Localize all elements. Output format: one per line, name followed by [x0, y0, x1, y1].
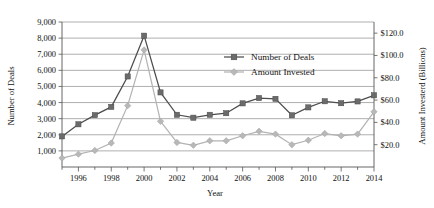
y-tick-label: 8,000	[37, 34, 56, 43]
legend-marker-square-icon	[231, 54, 237, 60]
y-tick-label: 4,000	[37, 99, 56, 108]
data-point-marker	[108, 140, 114, 146]
data-point-marker	[92, 147, 98, 153]
chart-legend: Number of DealsAmount Invested	[224, 52, 315, 77]
data-point-marker	[273, 96, 278, 101]
y-tick-label: 2,000	[37, 131, 56, 140]
x-tick-label: 2002	[169, 174, 186, 183]
y2-tick-label: $80.0	[381, 74, 400, 83]
data-point-marker	[190, 142, 196, 148]
y-axis-title: Number of Deals	[6, 66, 16, 126]
data-point-marker	[256, 128, 262, 134]
data-point-marker	[207, 138, 213, 144]
data-point-marker	[240, 101, 245, 106]
y2-tick-label: $60.0	[381, 96, 400, 105]
y-tick-label: 9,000	[37, 18, 56, 27]
series-layer	[59, 33, 377, 161]
y-tick-label: 6,000	[37, 66, 56, 75]
x-tick-label: 2010	[300, 174, 317, 183]
data-point-marker	[239, 133, 245, 139]
data-point-marker	[272, 131, 278, 137]
y2-axis-tick-labels: $20.0$40.0$60.0$80.0$100.0$120.0	[381, 29, 404, 150]
data-point-marker	[141, 47, 147, 53]
chart-container: 1,0002,0003,0004,0005,0006,0007,0008,000…	[0, 0, 434, 208]
data-point-marker	[355, 99, 360, 104]
legend-item-label: Amount Invested	[251, 67, 315, 77]
data-point-marker	[75, 151, 81, 157]
y-tick-label: 3,000	[37, 115, 56, 124]
x-tick-label: 2012	[333, 174, 350, 183]
data-point-marker	[289, 113, 294, 118]
data-point-marker	[322, 130, 328, 136]
x-tick-label: 2004	[201, 174, 219, 183]
line-chart: 1,0002,0003,0004,0005,0006,0007,0008,000…	[0, 0, 434, 208]
data-point-marker	[142, 33, 147, 38]
y2-tick-label: $20.0	[381, 141, 400, 150]
data-point-marker	[371, 93, 376, 98]
data-point-marker	[59, 155, 65, 161]
y-tick-label: 7,000	[37, 50, 56, 59]
y2-tick-label: $100.0	[381, 51, 404, 60]
x-tick-label: 1998	[103, 174, 120, 183]
y-axis-tick-labels: 1,0002,0003,0004,0005,0006,0007,0008,000…	[37, 18, 56, 156]
x-tick-label: 2014	[366, 174, 384, 183]
y2-tick-label: $120.0	[381, 29, 404, 38]
legend-item-label: Number of Deals	[251, 52, 315, 62]
data-point-marker	[223, 138, 229, 144]
y-tick-label: 1,000	[37, 147, 56, 156]
data-point-marker	[322, 99, 327, 104]
data-point-marker	[92, 113, 97, 118]
x-tick-label: 1996	[70, 174, 87, 183]
data-point-marker	[125, 74, 130, 79]
axes-group	[59, 22, 378, 172]
data-point-marker	[207, 112, 212, 117]
x-tick-label: 2006	[234, 174, 251, 183]
x-tick-label: 2000	[136, 174, 153, 183]
data-point-marker	[174, 112, 179, 117]
data-point-marker	[338, 133, 344, 139]
series-line-1	[62, 36, 374, 137]
y2-axis-title: Amount Investerd (Billions)	[417, 47, 427, 145]
data-point-marker	[124, 102, 130, 108]
x-axis-tick-labels: 1996199820002002200420062008201020122014	[70, 174, 383, 183]
data-point-marker	[339, 101, 344, 106]
legend-marker-diamond-icon	[231, 69, 238, 76]
data-point-marker	[59, 134, 64, 139]
data-point-marker	[306, 105, 311, 110]
data-point-marker	[109, 104, 114, 109]
data-point-marker	[76, 122, 81, 127]
data-point-marker	[289, 141, 295, 147]
x-axis-title: Year	[207, 188, 223, 198]
y2-tick-label: $40.0	[381, 118, 400, 127]
data-point-marker	[305, 137, 311, 143]
data-point-marker	[256, 95, 261, 100]
data-point-marker	[158, 90, 163, 95]
y-tick-label: 5,000	[37, 82, 56, 91]
gridlines-group	[62, 22, 374, 151]
data-point-marker	[224, 111, 229, 116]
x-tick-label: 2008	[267, 174, 284, 183]
data-point-marker	[191, 115, 196, 120]
